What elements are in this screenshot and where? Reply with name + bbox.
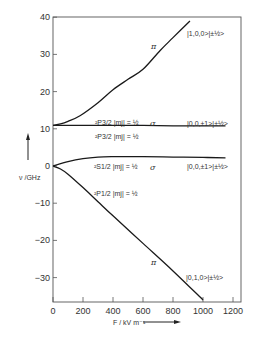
chart: 020040060080010001200−30−20−10010203040 … [0, 0, 254, 340]
x-tick-label: 800 [165, 306, 180, 316]
level-label-p32-above: ²P3/2 |mj| = ½ [95, 119, 139, 127]
pi-label-upper: π [150, 42, 157, 51]
state-label-sigma-p32: |0,0,±1>|±½> [187, 120, 228, 128]
arrow-up-icon [26, 133, 30, 140]
pi-label-lower: π [150, 258, 157, 267]
state-label-pi-lower: |0,1,0>|±½> [186, 274, 223, 282]
y-axis-title: ν /GHz [19, 174, 41, 181]
series-line [53, 21, 190, 126]
y-tick-label: −30 [35, 273, 50, 283]
y-axis-label: ν /GHz [19, 133, 41, 181]
x-tick-label: 600 [135, 306, 150, 316]
level-label-p12: ²P1/2 |mj| = ½ [94, 190, 138, 198]
series-line [53, 166, 203, 300]
level-label-p32-below: ²P3/2 |mj| = ½ [95, 133, 139, 141]
x-tick-label: 1000 [193, 306, 213, 316]
x-tick-label: 400 [105, 306, 120, 316]
plot-frame [53, 17, 241, 302]
x-axis-label: F / kV m⁻¹ [113, 319, 181, 326]
sigma-label-s12: σ [150, 163, 156, 172]
sigma-label-p32: σ [150, 119, 156, 128]
y-tick-label: 30 [40, 49, 50, 59]
y-tick-label: −10 [35, 198, 50, 208]
state-label-pi-upper: |1,0,0>|±½> [187, 30, 224, 38]
x-tick-label: 0 [50, 306, 55, 316]
y-tick-label: 40 [40, 12, 50, 22]
data-series [53, 21, 226, 300]
arrow-right-icon [174, 320, 181, 324]
y-tick-label: 10 [40, 124, 50, 134]
level-label-s12: ²S1/2 |mj| = ½ [94, 163, 138, 171]
y-tick-label: 20 [40, 87, 50, 97]
y-tick-label: 0 [45, 161, 50, 171]
x-tick-label: 200 [75, 306, 90, 316]
x-axis-title: F / kV m⁻¹ [113, 319, 146, 326]
state-label-sigma-s12: |0,0,±1>|±½> [187, 163, 228, 171]
x-tick-label: 1200 [223, 306, 243, 316]
y-tick-label: −20 [35, 235, 50, 245]
